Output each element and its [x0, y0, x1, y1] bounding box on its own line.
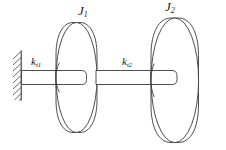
wall-hatching	[13, 52, 21, 101]
shaft-2-tip-overlay	[151, 71, 177, 85]
rotor-disk-1	[56, 23, 97, 133]
diagram-canvas	[0, 0, 226, 150]
fixed-support-wall	[13, 51, 21, 101]
label-stiffness-kt2: kt2	[122, 56, 132, 69]
label-J2-subscript: 2	[171, 6, 175, 15]
label-J1-subscript: 1	[84, 10, 88, 19]
torsional-system-diagram: J1 J2 kt1 kt2	[0, 0, 226, 150]
rotor-disk-2	[151, 18, 199, 143]
label-inertia-J1: J1	[78, 4, 88, 19]
label-kt2-subscript: t2	[127, 61, 132, 68]
shaft-1-tip-overlay	[56, 71, 87, 85]
label-stiffness-kt1: kt1	[31, 56, 41, 69]
label-inertia-J2: J2	[165, 0, 175, 15]
label-kt1-subscript: t1	[36, 61, 41, 68]
